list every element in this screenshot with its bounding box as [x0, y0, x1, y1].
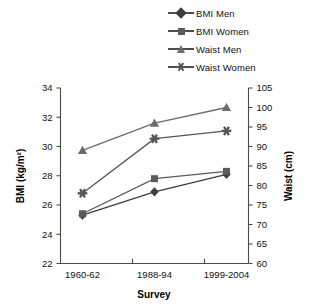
left-tick-label: 32 [42, 112, 53, 123]
left-tick-label: 28 [42, 170, 53, 181]
bottom-tick-label: 1999-2004 [204, 269, 249, 280]
right-axis-ticks [249, 88, 253, 264]
left-tick-label: 24 [42, 229, 53, 240]
right-tick-label: 65 [257, 238, 268, 249]
right-tick-label: 70 [257, 219, 268, 230]
right-tick-label: 80 [257, 180, 268, 191]
bottom-axis-ticklabels: 1960-621988-941999-2004 [65, 269, 249, 280]
left-tick-label: 26 [42, 199, 53, 210]
datapoint-bmi-women-2 [223, 168, 230, 175]
datapoint-waist-men-2 [222, 103, 231, 111]
datapoint-bmi-women-0 [79, 210, 86, 217]
bottom-axis-ticks [133, 259, 205, 264]
left-axis-ticklabels: 22242628303234 [42, 82, 53, 269]
right-tick-label: 90 [257, 141, 268, 152]
chart-svg: 22242628303234 6065707580859095100105 19… [0, 0, 309, 306]
right-axis-ticklabels: 6065707580859095100105 [257, 82, 273, 269]
right-tick-label: 100 [257, 102, 273, 113]
chart-figure: BMI Men BMI Women Waist Men Waist Women [0, 0, 309, 306]
bottom-axis-title: Survey [137, 289, 171, 300]
right-tick-label: 85 [257, 160, 268, 171]
right-tick-label: 75 [257, 199, 268, 210]
left-tick-label: 22 [42, 258, 53, 269]
datapoint-bmi-men-1 [150, 187, 159, 196]
right-tick-label: 95 [257, 121, 268, 132]
plot-area: 22242628303234 6065707580859095100105 19… [0, 0, 309, 306]
right-axis-title: Waist (cm) [283, 151, 294, 201]
bottom-tick-label: 1960-62 [65, 269, 100, 280]
left-tick-label: 34 [42, 82, 53, 93]
series-group [78, 103, 232, 220]
left-axis-title: BMI (kg/m²) [15, 149, 26, 203]
left-tick-label: 30 [42, 141, 53, 152]
datapoint-bmi-women-1 [151, 175, 158, 182]
right-tick-label: 60 [257, 258, 268, 269]
left-axis-ticks [57, 88, 61, 264]
bottom-tick-label: 1988-94 [137, 269, 172, 280]
datapoint-waist-women-2 [222, 126, 232, 136]
datapoint-waist-men-0 [78, 146, 87, 154]
right-tick-label: 105 [257, 82, 273, 93]
series-line-waist-men [83, 108, 227, 151]
